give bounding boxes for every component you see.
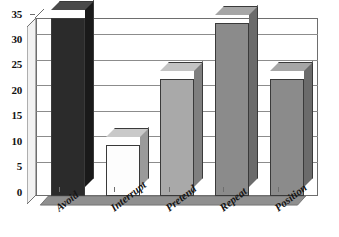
y-axis-tick-marks: [24, 18, 36, 206]
plot-area: [36, 18, 318, 196]
bar-avoid: [51, 9, 85, 196]
bar-side-face: [304, 61, 313, 187]
y-axis-tick-label: 15: [11, 109, 22, 121]
x-axis-tick-mark: [223, 187, 224, 192]
bar-repeat: [215, 14, 249, 196]
x-axis-tick-mark: [114, 187, 115, 192]
y-axis-tick-label: 20: [11, 84, 22, 96]
y-axis-tick-label: 30: [11, 33, 22, 45]
y-axis-tick-label: 35: [11, 8, 22, 20]
bar-side-face: [194, 61, 203, 187]
y-axis-tick-labels: 05101520253035: [0, 18, 22, 196]
bar-side-face: [249, 5, 258, 187]
x-axis-tick-mark: [169, 187, 170, 192]
bar-front-face: [215, 23, 249, 196]
y-axis-tick-label: 5: [17, 160, 22, 172]
x-axis-tick-mark: [278, 187, 279, 192]
y-axis-tick-label: 10: [11, 135, 22, 147]
bar-front-face: [270, 79, 304, 196]
bar-front-face: [160, 79, 194, 196]
bar-side-face: [85, 0, 94, 187]
bar-front-face: [51, 18, 85, 196]
x-axis-tick-mark: [59, 187, 60, 192]
bar-position: [270, 70, 304, 196]
y-axis-tick-label: 25: [11, 58, 22, 70]
bar-pretend: [160, 70, 194, 196]
bar-chart: 05101520253035 AvoidInterruptPretendRepe…: [0, 0, 339, 237]
x-axis-tick-labels: AvoidInterruptPretendRepeatPosition: [0, 196, 339, 237]
